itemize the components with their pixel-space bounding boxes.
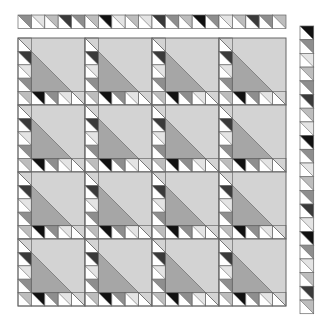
block-left-hst — [152, 92, 165, 105]
top-border-square — [139, 15, 152, 28]
right-border-square — [300, 108, 314, 122]
right-border-square — [300, 300, 314, 314]
block-left-hst — [152, 51, 165, 64]
block-left-hst — [219, 132, 232, 145]
block-left-hst — [18, 293, 31, 306]
block-bottom-hst — [179, 159, 192, 172]
block-left-hst — [85, 51, 98, 64]
block-bottom-hst — [125, 159, 138, 172]
block-bottom-hst — [232, 159, 245, 172]
right-border-square — [300, 177, 314, 191]
top-border-square — [273, 15, 286, 28]
quilt-block — [18, 38, 85, 105]
quilt-block — [219, 38, 286, 105]
block-left-hst — [85, 199, 98, 212]
block-left-hst — [219, 51, 232, 64]
block-bottom-hst — [259, 226, 272, 239]
block-bottom-hst — [192, 92, 205, 105]
block-left-hst — [152, 293, 165, 306]
block-bottom-hst — [232, 293, 245, 306]
block-bottom-hst — [179, 293, 192, 306]
top-border-square — [31, 15, 44, 28]
block-left-hst — [85, 185, 98, 198]
block-bottom-hst — [31, 293, 44, 306]
right-border-square — [300, 26, 314, 40]
top-border-square — [192, 15, 205, 28]
block-left-hst — [18, 252, 31, 265]
block-left-hst — [152, 159, 165, 172]
block-left-hst — [85, 78, 98, 91]
block-left-hst — [219, 78, 232, 91]
block-bottom-hst — [246, 226, 259, 239]
right-border-square — [300, 67, 314, 81]
top-border-square — [179, 15, 192, 28]
block-left-hst — [152, 252, 165, 265]
block-left-hst — [152, 212, 165, 225]
block-grid — [18, 38, 286, 306]
block-left-hst — [18, 118, 31, 131]
top-border-square — [72, 15, 85, 28]
block-bottom-hst — [125, 226, 138, 239]
quilt-block — [152, 105, 219, 172]
block-left-hst — [152, 279, 165, 292]
block-left-hst — [152, 118, 165, 131]
block-left-hst — [85, 226, 98, 239]
right-border-square — [300, 190, 314, 204]
top-border-square — [152, 15, 165, 28]
right-border-square — [300, 273, 314, 287]
right-border-square — [300, 286, 314, 300]
block-bottom-hst — [45, 293, 58, 306]
quilt-block — [152, 38, 219, 105]
right-border-square — [300, 232, 314, 246]
block-bottom-hst — [165, 293, 178, 306]
right-border-square — [300, 245, 314, 259]
block-bottom-hst — [31, 159, 44, 172]
block-left-hst — [152, 266, 165, 279]
block-bottom-hst — [98, 159, 111, 172]
block-left-hst — [85, 92, 98, 105]
block-left-hst — [18, 226, 31, 239]
top-border-square — [232, 15, 245, 28]
block-bottom-hst — [112, 226, 125, 239]
block-left-hst — [219, 118, 232, 131]
block-bottom-hst — [125, 293, 138, 306]
right-border-square — [300, 259, 314, 273]
block-bottom-hst — [45, 159, 58, 172]
block-left-hst — [219, 65, 232, 78]
block-bottom-hst — [112, 92, 125, 105]
block-left-hst — [219, 252, 232, 265]
block-bottom-hst — [259, 159, 272, 172]
block-left-hst — [152, 65, 165, 78]
block-bottom-hst — [58, 293, 71, 306]
block-bottom-hst — [165, 226, 178, 239]
block-bottom-hst — [45, 226, 58, 239]
block-bottom-hst — [259, 293, 272, 306]
block-bottom-hst — [179, 92, 192, 105]
block-left-hst — [152, 226, 165, 239]
top-border-square — [18, 15, 31, 28]
block-bottom-hst — [112, 159, 125, 172]
quilt-block — [219, 172, 286, 239]
block-left-hst — [219, 266, 232, 279]
block-left-hst — [152, 78, 165, 91]
block-left-hst — [219, 145, 232, 158]
block-left-hst — [219, 199, 232, 212]
block-left-hst — [219, 159, 232, 172]
top-border-square — [259, 15, 272, 28]
quilt-block — [85, 172, 152, 239]
right-border-square — [300, 163, 314, 177]
block-left-hst — [219, 293, 232, 306]
block-bottom-hst — [246, 293, 259, 306]
block-bottom-hst — [58, 92, 71, 105]
block-bottom-hst — [165, 92, 178, 105]
block-left-hst — [152, 132, 165, 145]
block-bottom-hst — [31, 226, 44, 239]
right-border-square — [300, 218, 314, 232]
block-left-hst — [152, 145, 165, 158]
right-border-square — [300, 40, 314, 54]
block-bottom-hst — [45, 92, 58, 105]
block-left-hst — [18, 185, 31, 198]
block-left-hst — [85, 252, 98, 265]
quilt-block — [18, 239, 85, 306]
block-left-hst — [219, 226, 232, 239]
